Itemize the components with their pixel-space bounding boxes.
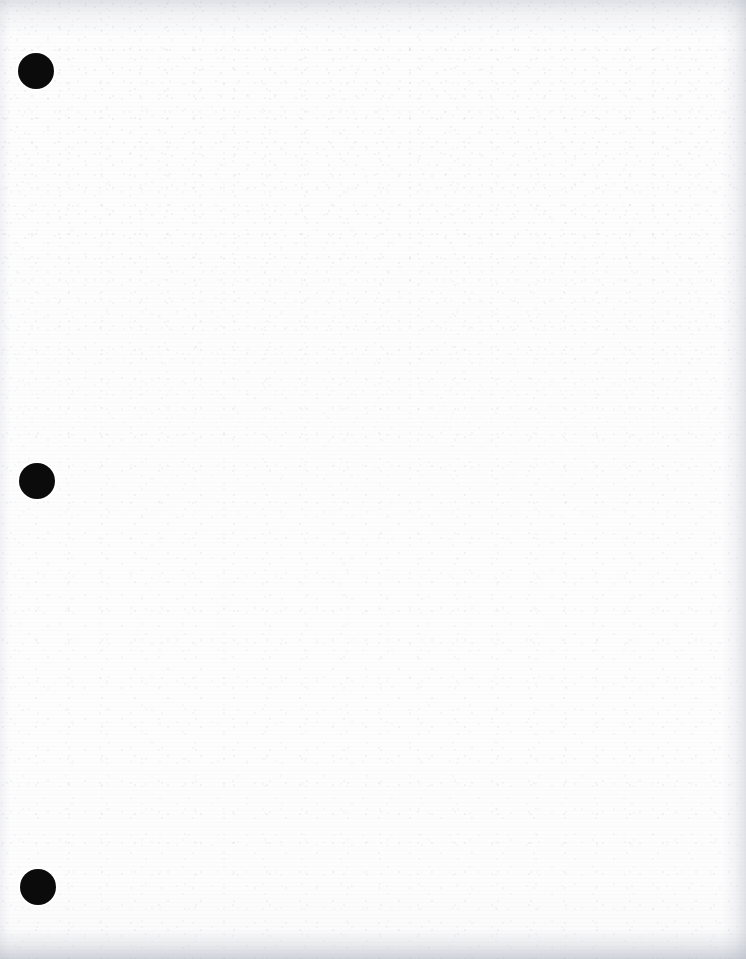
scanned-document-page <box>0 0 746 959</box>
scan-streak-texture <box>0 0 746 959</box>
paper-grain-texture-upper <box>0 0 746 560</box>
page-edge-shadow-top <box>0 0 746 36</box>
punch-hole-bottom-icon <box>20 869 56 905</box>
punch-hole-top-icon <box>18 53 54 89</box>
paper-grain-texture <box>0 0 746 959</box>
page-edge-shadow-bottom <box>0 929 746 959</box>
page-edge-shadow-left <box>0 0 10 959</box>
page-edge-shadow-right <box>722 0 746 959</box>
paper-background <box>0 0 746 959</box>
punch-hole-middle-icon <box>19 463 55 499</box>
